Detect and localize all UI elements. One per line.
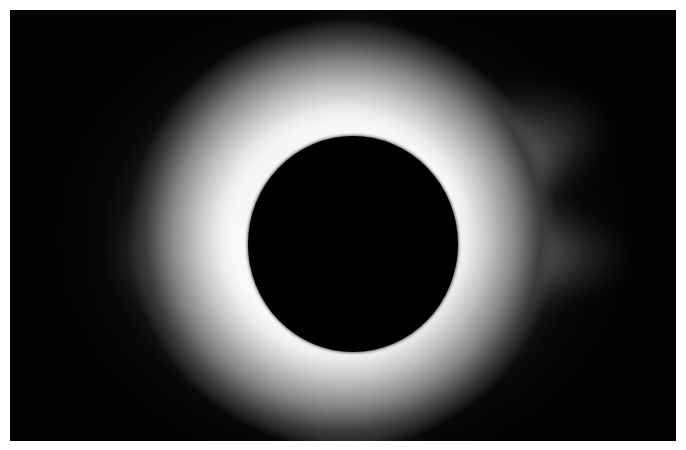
- eclipse-photo: [10, 10, 676, 441]
- corona-streamer-right: [430, 200, 630, 310]
- moon-disk: [248, 136, 458, 352]
